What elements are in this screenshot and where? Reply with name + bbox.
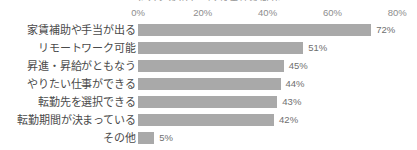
bar <box>138 24 371 36</box>
bar-track: 51% <box>138 39 417 57</box>
x-tick-label: 60% <box>312 7 352 19</box>
x-tick-label: 80% <box>377 7 417 19</box>
bar-row: 転勤先を選択できる43% <box>0 93 417 111</box>
bar-category-label: 転勤先を選択できる <box>0 93 136 111</box>
bar-category-label: 転勤期間が決まっている <box>0 111 136 129</box>
bar <box>138 114 274 126</box>
bar <box>138 96 277 108</box>
x-axis-tick-labels: 0%20%40%60%80% <box>0 7 417 20</box>
bar-row: やりたい仕事ができる44% <box>0 75 417 93</box>
bar-category-label: やりたい仕事ができる <box>0 75 136 93</box>
x-tick-label: 0% <box>118 7 158 19</box>
bar-row: リモートワーク可能51% <box>0 39 417 57</box>
bar-track: 43% <box>138 93 417 111</box>
bar-value-label: 5% <box>159 129 173 147</box>
bar-chart: たらくないで…べき条件は何か 0%20%40%60%80% 家賃補助や手当が出る… <box>0 0 417 150</box>
x-tick-label: 20% <box>183 7 223 19</box>
bar-value-label: 44% <box>286 75 305 93</box>
bar-value-label: 42% <box>279 111 298 129</box>
bar-row: その他5% <box>0 129 417 147</box>
bar-value-label: 72% <box>376 21 395 39</box>
bar-category-label: 家賃補助や手当が出る <box>0 21 136 39</box>
bar-value-label: 43% <box>282 93 301 111</box>
bar <box>138 42 303 54</box>
bar <box>138 78 281 90</box>
bar-track: 72% <box>138 21 417 39</box>
bar-value-label: 45% <box>289 57 308 75</box>
bar-row: 転勤期間が決まっている42% <box>0 111 417 129</box>
bar-row: 家賃補助や手当が出る72% <box>0 21 417 39</box>
chart-title: たらくないで…べき条件は何か <box>0 0 417 1</box>
bar-row: 昇進・昇給がともなう45% <box>0 57 417 75</box>
bar-rows: 家賃補助や手当が出る72%リモートワーク可能51%昇進・昇給がともなう45%やり… <box>0 21 417 147</box>
bar-category-label: リモートワーク可能 <box>0 39 136 57</box>
bar-category-label: その他 <box>0 129 136 147</box>
bar-track: 45% <box>138 57 417 75</box>
bar <box>138 60 284 72</box>
bar-track: 5% <box>138 129 417 147</box>
x-tick-label: 40% <box>248 7 288 19</box>
bar <box>138 132 154 144</box>
bar-track: 42% <box>138 111 417 129</box>
bar-category-label: 昇進・昇給がともなう <box>0 57 136 75</box>
bar-value-label: 51% <box>308 39 327 57</box>
bar-track: 44% <box>138 75 417 93</box>
